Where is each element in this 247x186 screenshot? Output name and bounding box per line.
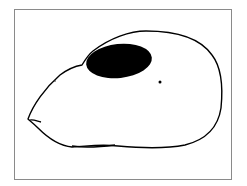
nostril-dot [159, 81, 162, 84]
eye-patch [84, 41, 153, 82]
head-drawing [0, 0, 247, 186]
small-dot [54, 80, 56, 82]
